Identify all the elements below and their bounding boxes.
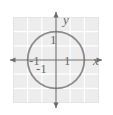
tick-label-y-positive-one: 1 [50,33,57,46]
y-axis-arrow-up [53,12,58,18]
y-axis-arrow-down [53,103,58,109]
x-axis-arrow-left [10,57,16,62]
tick-label-y-negative-one: -1 [36,62,47,75]
tick-label-x-positive-one: 1 [64,54,71,67]
y-axis-label: y [63,13,69,26]
x-axis-label: x [93,54,99,67]
unit-circle-figure: 1 -1 1 -1 x y [0,0,113,115]
